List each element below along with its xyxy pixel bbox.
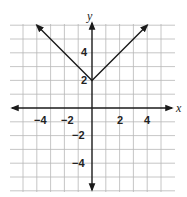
x-axis-label: x	[175, 101, 182, 115]
y-tick-label-neg4: −4	[72, 157, 85, 169]
y-axis-label: y	[86, 9, 93, 23]
x-tick-label-neg2: −2	[61, 114, 74, 126]
coordinate-plane: x y −4 −2 2 4 4 2 −2 −4	[0, 0, 187, 197]
x-tick-label-neg4: −4	[34, 114, 47, 126]
x-tick-label-2: 2	[117, 114, 123, 126]
y-tick-label-4: 4	[81, 46, 88, 58]
y-tick-label-2: 2	[81, 74, 87, 86]
y-tick-label-neg2: −2	[72, 129, 85, 141]
x-tick-label-4: 4	[144, 114, 151, 126]
